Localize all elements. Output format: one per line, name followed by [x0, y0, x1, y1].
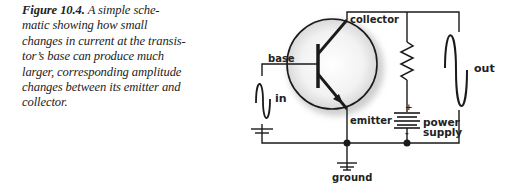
- label-minus: -: [405, 128, 409, 138]
- label-output: out: [474, 62, 495, 75]
- output-sine-icon: [445, 35, 467, 106]
- battery-icon: [394, 113, 420, 128]
- label-ground: ground: [332, 172, 372, 183]
- transistor-schematic: collector base emitter in out power supp…: [0, 0, 511, 183]
- input-source-icon: [251, 124, 273, 134]
- label-base: base: [268, 53, 295, 64]
- label-collector: collector: [350, 14, 399, 25]
- label-supply: supply: [423, 126, 462, 138]
- label-emitter: emitter: [350, 115, 392, 126]
- junction-dot-power: [404, 140, 411, 147]
- junction-dot-emitter: [344, 140, 351, 147]
- label-plus: +: [405, 102, 413, 112]
- label-input: in: [275, 92, 287, 105]
- resistor-icon: [401, 42, 413, 80]
- input-sine-icon: [256, 84, 270, 118]
